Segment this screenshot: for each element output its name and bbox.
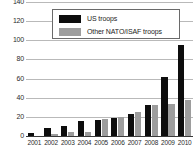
x-axis-tick-label: 2007 [126,139,143,147]
bar [128,114,134,136]
x-axis-tick-label: 2009 [160,139,177,147]
x-axis-tick-label: 2005 [93,139,110,147]
bar-group [26,0,43,137]
bar-chart: 020406080100120140 200120022003200420052… [0,0,195,159]
bar [152,105,158,136]
y-axis-tick-label: 140 [2,0,24,5]
x-axis-tick-label: 2004 [76,139,93,147]
y-axis-tick-label: 20 [2,113,24,120]
bar [111,118,117,136]
legend-label-us-troops: US troops [87,15,117,23]
x-axis: 2001200220032004200520062007200820092010 [26,139,193,151]
bar [78,121,84,136]
x-axis-tick-label: 2002 [43,139,60,147]
bar [168,104,174,136]
bar [145,105,151,136]
x-axis-tick-label: 2003 [59,139,76,147]
y-axis-tick-label: 120 [2,17,24,24]
bar [135,112,141,136]
x-axis-tick-label: 2010 [176,139,193,147]
bar [161,77,167,136]
bar [118,117,124,136]
bar [178,45,184,136]
legend-swatch-icon-us-troops [59,15,81,23]
legend-item-us-troops: US troops [59,13,179,24]
x-axis-baseline [26,136,193,137]
y-axis-tick-label: 100 [2,36,24,43]
x-axis-tick-label: 2008 [143,139,160,147]
x-axis-tick-label: 2001 [26,139,43,147]
y-axis: 020406080100120140 [0,0,24,159]
chart-legend: US troops Other NATO/ISAF troops [52,9,180,39]
legend-label-other-nato-isaf-troops: Other NATO/ISAF troops [87,28,162,36]
y-axis-tick-label: 40 [2,94,24,101]
x-axis-tick-label: 2006 [110,139,127,147]
y-axis-tick-label: 0 [2,132,24,139]
bar [185,100,191,136]
legend-swatch-icon-other-nato-isaf-troops [59,28,81,36]
bar [102,119,108,136]
bar [95,120,101,136]
bar [44,128,50,136]
y-axis-tick-label: 60 [2,75,24,82]
y-axis-tick-label: 80 [2,55,24,62]
legend-item-other-nato-isaf-troops: Other NATO/ISAF troops [59,26,179,37]
bar [61,126,67,136]
